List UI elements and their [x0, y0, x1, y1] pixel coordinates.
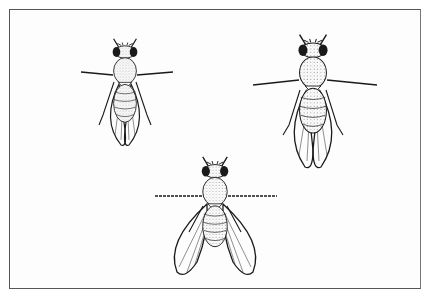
fly-illustration — [0, 0, 431, 292]
fly-top-left — [81, 39, 173, 146]
fly-top-right — [253, 35, 377, 168]
fly-bottom-center — [155, 157, 277, 275]
